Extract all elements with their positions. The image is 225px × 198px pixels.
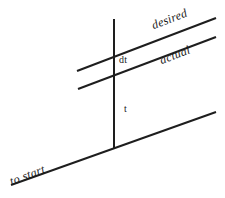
diagram-canvas: desired actual dt t to start [0,0,225,198]
dt-label: dt [119,55,127,65]
t-label: t [124,104,127,114]
